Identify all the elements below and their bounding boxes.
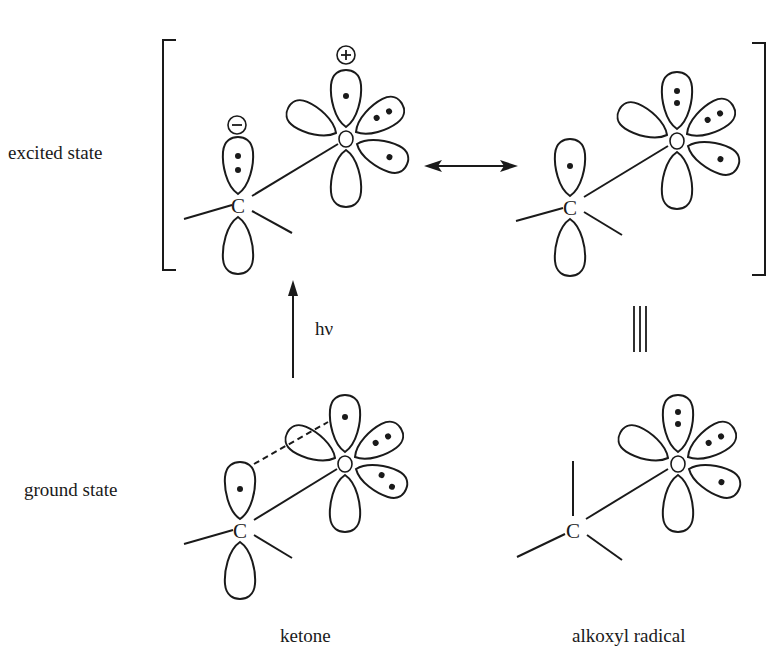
left-bracket xyxy=(163,40,176,270)
carbon-lower-lobe xyxy=(225,542,255,599)
oxygen-top-lobe xyxy=(330,395,360,452)
excited-right-structure: C xyxy=(516,72,743,276)
oxygen-lower-right-lobe xyxy=(683,133,744,179)
oxygen-atom xyxy=(338,456,352,472)
excited-left-structure: C xyxy=(184,46,412,274)
oxygen-atom xyxy=(339,131,353,147)
ground-state-label: ground state xyxy=(24,479,117,500)
carbon-lower-lobe xyxy=(555,219,585,276)
oxygen-bottom-lobe xyxy=(663,475,693,532)
ground-ketone-structure: C xyxy=(184,395,411,599)
carbon-atom: C xyxy=(233,519,247,543)
oxygen-lower-right-lobe xyxy=(351,456,412,502)
photon-label: hν xyxy=(315,318,334,339)
equivalence-icon xyxy=(634,306,646,352)
positive-charge-icon xyxy=(337,46,355,64)
oxygen-bottom-lobe xyxy=(330,475,360,532)
resonance-arrow-icon xyxy=(424,160,518,172)
orbital-diagram: excited state ground state C xyxy=(0,0,784,667)
oxygen-upper-left-lobe xyxy=(282,95,343,145)
oxygen-atom xyxy=(670,133,684,149)
oxygen-atom xyxy=(671,456,685,472)
oxygen-upper-left-lobe xyxy=(613,97,674,147)
carbon-atom: C xyxy=(563,196,577,220)
oxygen-bottom-lobe xyxy=(662,152,692,209)
carbon-upper-lobe xyxy=(223,137,253,194)
oxygen-upper-left-lobe xyxy=(614,420,675,470)
oxygen-bottom-lobe xyxy=(331,150,361,207)
carbon-lower-lobe xyxy=(223,217,253,274)
photon-arrow-icon xyxy=(288,280,298,378)
alkoxyl-radical-label: alkoxyl radical xyxy=(572,625,685,646)
carbon-atom: C xyxy=(231,194,245,218)
oxygen-lower-right-lobe xyxy=(684,456,745,502)
negative-charge-icon xyxy=(228,116,246,134)
oxygen-lower-right-lobe xyxy=(352,131,413,177)
oxygen-upper-left-lobe xyxy=(281,420,342,470)
excited-state-label: excited state xyxy=(8,142,102,163)
ground-alkoxyl-structure: C xyxy=(517,395,744,560)
ketone-label: ketone xyxy=(280,625,331,646)
carbon-atom: C xyxy=(566,519,580,543)
right-bracket xyxy=(752,43,765,275)
